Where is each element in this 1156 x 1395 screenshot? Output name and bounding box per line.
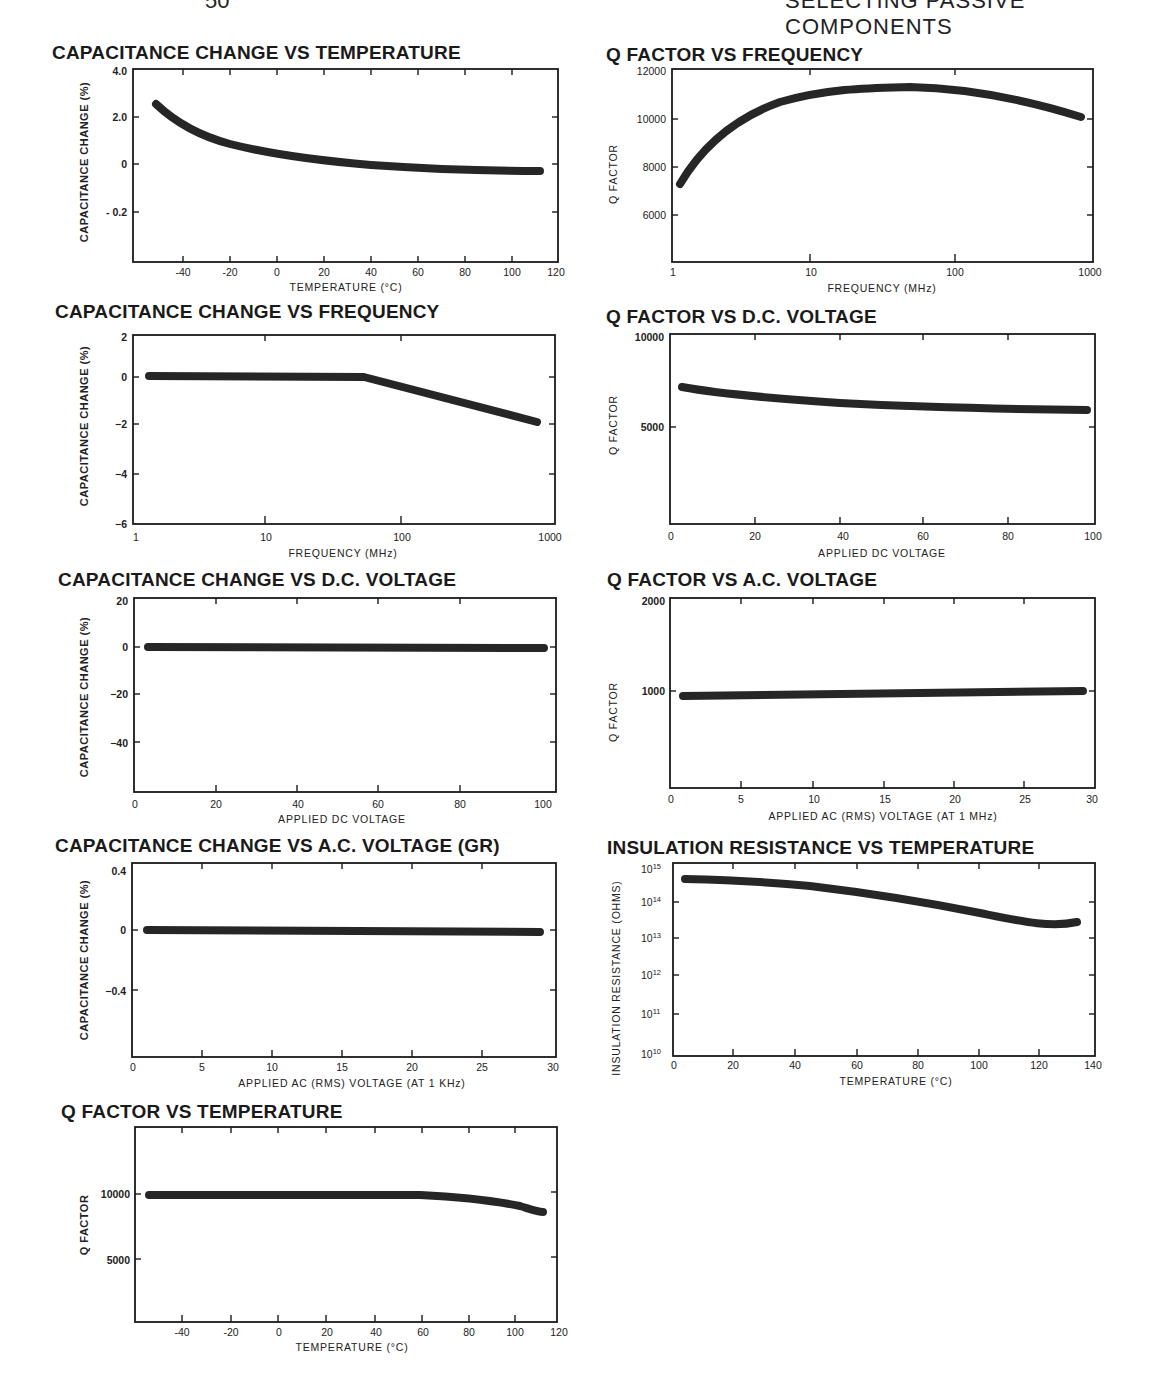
y-tick-label: −6: [115, 518, 127, 530]
x-tick-label: 140: [1084, 1059, 1102, 1071]
y-tick-label: 0: [121, 371, 127, 383]
y-ticks: [672, 119, 1093, 215]
x-tick-label: 1000: [538, 531, 562, 543]
y-tick-label: −0.4: [105, 985, 126, 997]
x-ticks: [265, 335, 401, 524]
x-tick-label: 1000: [1078, 266, 1102, 278]
x-tick-label: 40: [789, 1059, 801, 1071]
x-tick-label: 120: [550, 1326, 568, 1338]
x-tick-label: 15: [879, 793, 891, 805]
x-axis-label: APPLIED DC VOLTAGE: [278, 813, 406, 825]
x-tick-label: 60: [917, 530, 929, 542]
x-tick-label: 40: [365, 266, 377, 278]
data-curve: [148, 647, 544, 648]
x-tick-label: 60: [417, 1326, 429, 1338]
x-tick-label: 20: [749, 530, 761, 542]
y-tick-label: 1014: [641, 895, 661, 908]
x-tick-label: 25: [476, 1061, 488, 1073]
x-ticks: [810, 69, 955, 262]
y-ticks: [132, 930, 556, 990]
y-tick-label: 1011: [641, 1007, 660, 1020]
x-tick-label: 100: [970, 1059, 988, 1071]
y-tick-label: −2: [115, 418, 127, 430]
data-curve: [680, 87, 1081, 184]
y-axis-label: CAPACITANCE CHANGE (%): [78, 346, 90, 506]
x-tick-label: 40: [292, 798, 304, 810]
y-tick-label: 0.4: [111, 865, 126, 877]
x-tick-label: 10: [805, 266, 817, 278]
y-axis-label: INSULATION RESISTANCE (OHMS): [610, 880, 622, 1075]
y-ticks: [134, 647, 556, 742]
x-axis-label: FREQUENCY (MHz): [288, 547, 397, 559]
y-tick-label: 1015: [641, 862, 661, 875]
y-axis-label: CAPACITANCE CHANGE (%): [78, 880, 90, 1040]
y-tick-label: 0: [122, 641, 128, 653]
y-tick-labels: 1015 1014 1013 1012 1011 1010: [641, 862, 661, 1060]
x-tick-label: 10: [260, 531, 272, 543]
x-axis-label: APPLIED AC (RMS) VOLTAGE (AT 1 KHz): [238, 1077, 465, 1089]
x-tick-label: 100: [503, 266, 521, 278]
x-axis-label: APPLIED DC VOLTAGE: [818, 547, 946, 559]
x-tick-label: 80: [1002, 530, 1014, 542]
x-tick-label: 0: [274, 266, 280, 278]
y-tick-label: −20: [110, 688, 128, 700]
y-axis-label: Q FACTOR: [607, 395, 619, 455]
x-tick-label: 120: [547, 266, 565, 278]
x-tick-label: -20: [222, 266, 237, 278]
y-tick-label: 2: [121, 331, 127, 343]
x-tick-label: 80: [912, 1059, 924, 1071]
plot-frame: [134, 598, 556, 792]
x-tick-label: 0: [668, 530, 674, 542]
x-tick-label: 5: [738, 793, 744, 805]
data-curve: [685, 879, 1077, 924]
y-tick-label: −4: [115, 468, 127, 480]
x-axis-label: FREQUENCY (MHz): [827, 282, 936, 294]
y-axis-label: CAPACITANCE CHANGE (%): [78, 82, 90, 242]
chart-q-vs-dc-voltage: 10000 5000 0 20 40 60 80 100 APPLIED DC …: [607, 331, 1102, 559]
chart-cap-vs-freq: 2 0 −2 −4 −6 1 10 100 1000 FREQUENCY (MH…: [78, 331, 562, 559]
y-tick-label: 12000: [637, 65, 666, 77]
x-ticks: [202, 863, 482, 1057]
x-tick-label: 0: [276, 1326, 282, 1338]
x-tick-label: 1: [133, 531, 139, 543]
y-tick-label: 2000: [642, 595, 666, 607]
x-ticks: [733, 863, 1039, 1056]
data-curve: [147, 930, 540, 932]
x-tick-label: 0: [668, 793, 674, 805]
chart-cap-vs-temp: 4.0 2.0 0 - 0.2 -40 -20 0 20 40 60 80 10…: [78, 65, 565, 293]
x-tick-label: 60: [412, 266, 424, 278]
data-curve: [149, 1195, 543, 1212]
y-tick-label: 4.0: [112, 65, 127, 77]
x-tick-label: 100: [946, 266, 964, 278]
data-curve: [683, 691, 1083, 696]
y-tick-label: 8000: [643, 161, 667, 173]
plot-frame: [132, 863, 556, 1057]
data-curve: [149, 376, 537, 422]
x-tick-label: 60: [372, 798, 384, 810]
x-axis-label: TEMPERATURE (°C): [839, 1075, 952, 1087]
x-tick-label: 120: [1030, 1059, 1048, 1071]
x-tick-label: 40: [837, 530, 849, 542]
x-tick-label: 30: [547, 1061, 559, 1073]
chart-cap-vs-dc-voltage: 20 0 −20 −40 0 20 40 60 80 100 APPLIED D…: [78, 595, 556, 825]
charts-canvas: .frame { fill: none; stroke: #1a1a1a; st…: [0, 0, 1156, 1395]
y-tick-label: 10000: [101, 1188, 130, 1200]
chart-q-vs-freq: 12000 10000 8000 6000 1 10 100 1000 FREQ…: [607, 65, 1102, 294]
x-tick-label: 80: [454, 798, 466, 810]
x-axis-label: TEMPERATURE (°C): [289, 281, 402, 293]
x-tick-label: -40: [174, 1326, 189, 1338]
x-tick-label: 10: [808, 793, 820, 805]
y-tick-label: 0: [121, 158, 127, 170]
x-tick-label: 100: [393, 531, 411, 543]
x-tick-label: 0: [132, 798, 138, 810]
x-tick-label: 1: [670, 266, 676, 278]
plot-frame: [133, 335, 555, 524]
plot-frame: [135, 1127, 557, 1322]
x-tick-label: 80: [463, 1326, 475, 1338]
x-axis-label: APPLIED AC (RMS) VOLTAGE (AT 1 MHz): [768, 810, 997, 822]
x-ticks: [216, 598, 460, 792]
chart-q-vs-ac-voltage: 2000 1000 0 5 10 15 20 25 30 APPLIED AC …: [607, 595, 1098, 822]
y-axis-label: CAPACITANCE CHANGE (%): [78, 617, 90, 777]
plot-frame: [670, 334, 1095, 524]
data-curve: [156, 104, 540, 171]
